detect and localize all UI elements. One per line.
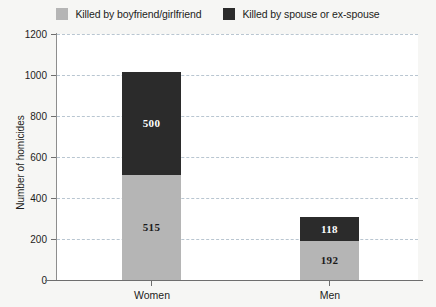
y-tick-800 xyxy=(51,116,56,117)
y-tick-1200 xyxy=(51,34,56,35)
y-axis-line xyxy=(56,33,57,281)
legend-swatch-icon-light xyxy=(56,8,68,20)
bar-segment-women-boyfriend[interactable]: 515 xyxy=(122,175,181,281)
x-tick-men xyxy=(329,281,330,286)
y-tick-600 xyxy=(51,157,56,158)
legend-swatch-icon-dark xyxy=(223,8,235,20)
x-tick-label-women: Women xyxy=(92,289,212,301)
chart-legend: Killed by boyfriend/girlfriend Killed by… xyxy=(0,4,436,24)
bar-segment-men-boyfriend[interactable]: 192 xyxy=(300,241,359,280)
stacked-bar-chart: Killed by boyfriend/girlfriend Killed by… xyxy=(0,0,436,307)
y-tick-label-1000: 1000 xyxy=(0,70,47,81)
gridline-600 xyxy=(57,157,418,158)
y-tick-label-1200: 1200 xyxy=(0,29,47,40)
x-tick-label-men: Men xyxy=(270,289,390,301)
y-tick-label-0: 0 xyxy=(0,275,47,286)
y-tick-1000 xyxy=(51,75,56,76)
legend-label-spouse-ex-spouse: Killed by spouse or ex-spouse xyxy=(242,8,379,20)
gridline-800 xyxy=(57,116,418,117)
bar-stack-women[interactable]: 500 515 xyxy=(122,72,181,280)
gridline-1200 xyxy=(57,34,418,35)
bar-value-label-women-spouse: 500 xyxy=(143,117,160,129)
bar-value-label-women-boyfriend: 515 xyxy=(143,221,160,233)
gridline-400 xyxy=(57,198,418,199)
y-tick-400 xyxy=(51,198,56,199)
x-tick-women xyxy=(151,281,152,286)
legend-item-spouse-ex-spouse: Killed by spouse or ex-spouse xyxy=(223,8,379,20)
x-axis-line xyxy=(45,280,423,281)
bar-value-label-men-spouse: 118 xyxy=(321,223,338,235)
gridline-1000 xyxy=(57,75,418,76)
y-tick-200 xyxy=(51,239,56,240)
legend-item-boyfriend-girlfriend: Killed by boyfriend/girlfriend xyxy=(56,8,201,20)
bar-segment-women-spouse[interactable]: 500 xyxy=(122,72,181,175)
legend-label-boyfriend-girlfriend: Killed by boyfriend/girlfriend xyxy=(75,8,201,20)
bar-stack-men[interactable]: 118 192 xyxy=(300,217,359,281)
y-tick-label-200: 200 xyxy=(0,234,47,245)
bar-segment-men-spouse[interactable]: 118 xyxy=(300,217,359,241)
y-axis-title: Number of homicides xyxy=(15,93,26,233)
bar-value-label-men-boyfriend: 192 xyxy=(321,254,338,266)
gridline-200 xyxy=(57,239,418,240)
